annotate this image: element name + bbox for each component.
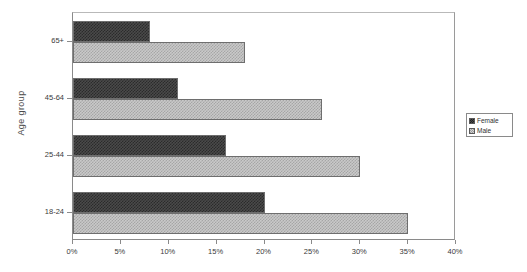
legend-label: Female [477,117,499,125]
x-tick-mark [311,240,312,244]
x-tick-mark [168,240,169,244]
x-tick-label-10%: 10% [148,247,188,256]
x-tick-mark [264,240,265,244]
bar-male-18-24 [73,213,408,234]
plot-area [72,12,455,240]
y-tick-label-25-44: 25-44 [20,150,64,159]
bar-male-25-44 [73,156,360,177]
x-tick-label-20%: 20% [244,247,284,256]
legend-item-male: Male [469,126,510,135]
x-tick-label-35%: 35% [387,247,427,256]
chart-legend: FemaleMale [466,113,513,137]
x-tick-mark [407,240,408,244]
y-axis-title: Age group [16,68,30,158]
y-tick-label-45-64: 45-64 [20,93,64,102]
bar-chart: Age group 65+45-6425-4418-24 0%5%10%15%2… [0,0,527,272]
y-tick-label-18-24: 18-24 [20,207,64,216]
x-tick-mark [359,240,360,244]
x-tick-label-0%: 0% [52,247,92,256]
y-tick-label-65+: 65+ [20,36,64,45]
bar-male-45-64 [73,99,322,120]
x-tick-label-40%: 40% [435,247,475,256]
x-tick-mark [72,240,73,244]
bar-female-25-44 [73,135,226,156]
bar-male-65+ [73,42,245,63]
x-tick-mark [216,240,217,244]
x-tick-mark [455,240,456,244]
x-tick-label-30%: 30% [339,247,379,256]
bar-female-45-64 [73,78,178,99]
bar-female-65+ [73,21,150,42]
legend-swatch-male-icon [469,128,475,134]
x-tick-label-25%: 25% [291,247,331,256]
legend-label: Male [477,127,491,135]
plot-inner [73,13,454,239]
x-tick-label-5%: 5% [100,247,140,256]
legend-item-female: Female [469,116,510,125]
bar-female-18-24 [73,192,265,213]
x-tick-label-15%: 15% [196,247,236,256]
legend-swatch-female-icon [469,118,475,124]
x-tick-mark [120,240,121,244]
